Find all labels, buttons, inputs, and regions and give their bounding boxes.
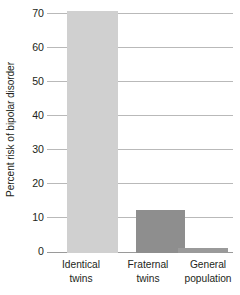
x-axis-tick-labels: Identical twins Fraternal twins General … [47, 258, 240, 295]
bar-general-population [178, 248, 228, 253]
y-tick-30: 30 [4, 144, 44, 155]
x-label-general-population: General population [173, 258, 240, 285]
y-tick-70: 70 [4, 8, 44, 19]
x-label-fraternal-twins-line2: twins [115, 272, 181, 286]
y-tick-60: 60 [4, 42, 44, 53]
x-label-general-population-line1: General [173, 258, 240, 272]
y-tick-0: 0 [4, 246, 44, 257]
y-axis-tick-labels: 70 60 50 40 30 20 10 0 [0, 0, 44, 254]
x-label-fraternal-twins-line1: Fraternal [115, 258, 181, 272]
y-tick-50: 50 [4, 76, 44, 87]
bar-chart: Percent risk of bipolar disorder 70 60 5… [0, 0, 240, 295]
plot-area [47, 0, 233, 254]
x-label-identical-twins-line2: twins [44, 272, 118, 286]
bar-fraternal-twins [136, 210, 185, 253]
y-tick-20: 20 [4, 178, 44, 189]
x-label-identical-twins: Identical twins [44, 258, 118, 285]
x-label-general-population-line2: population [173, 272, 240, 286]
x-label-identical-twins-line1: Identical [44, 258, 118, 272]
bar-identical-twins [67, 11, 118, 253]
y-tick-40: 40 [4, 110, 44, 121]
x-label-fraternal-twins: Fraternal twins [115, 258, 181, 285]
y-tick-10: 10 [4, 212, 44, 223]
